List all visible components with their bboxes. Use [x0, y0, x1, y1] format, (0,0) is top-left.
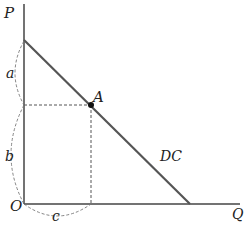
y-axis-label: P — [3, 4, 15, 22]
x-axis-label: Q — [232, 206, 244, 222]
point-a-label: A — [91, 88, 104, 106]
origin-label: O — [10, 197, 22, 215]
brace-a-label: a — [6, 65, 14, 81]
demand-curve-dc — [24, 40, 190, 204]
brace-b-label: b — [5, 148, 14, 164]
curve-label: DC — [159, 148, 182, 164]
demand-diagram: P Q O DC A a b c — [0, 0, 247, 232]
brace-c-label: c — [52, 208, 60, 224]
brace-a — [15, 41, 24, 105]
